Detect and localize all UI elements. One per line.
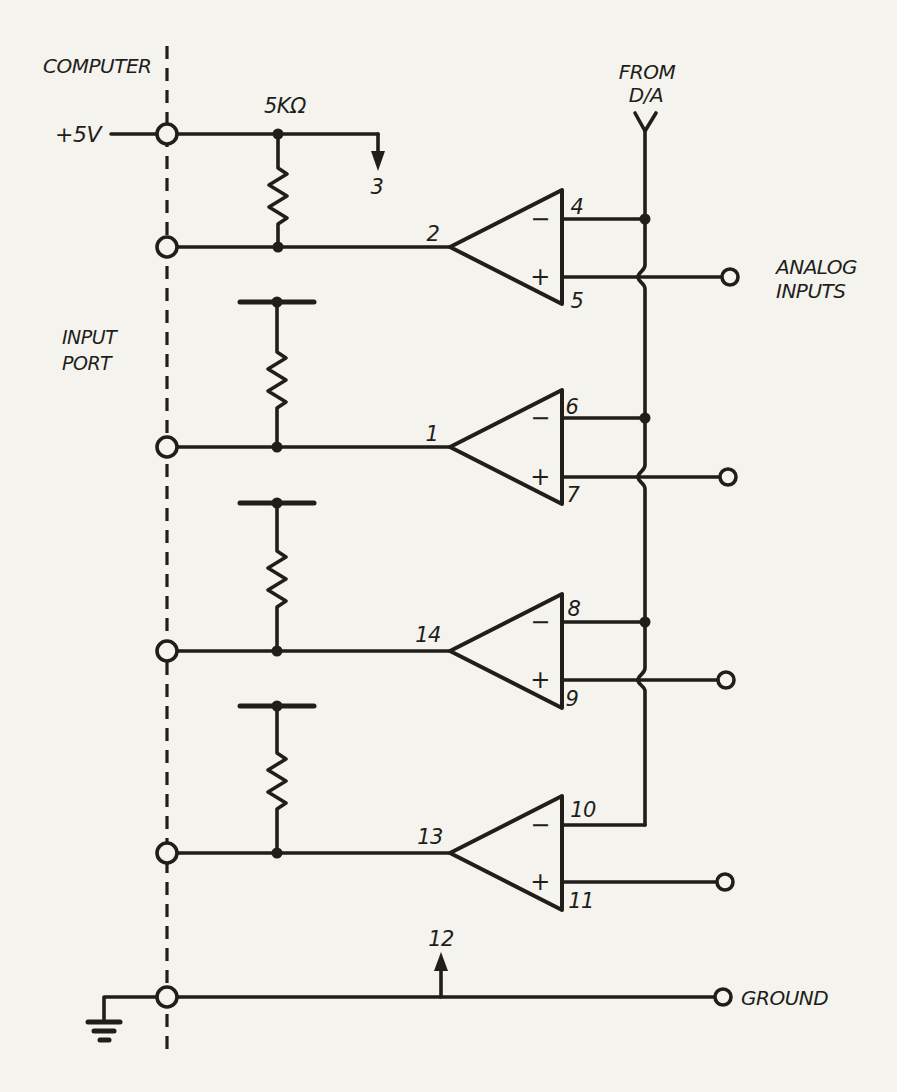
terminal-bit-2 <box>157 437 177 457</box>
comparator-2-minus-sign: − <box>530 404 550 432</box>
pin12-arrow-head-icon <box>434 952 448 971</box>
comparator-1-inverting-pin: 4 <box>571 195 584 219</box>
resistor-body <box>268 302 286 447</box>
comparator-4-output-pin: 13 <box>417 825 443 849</box>
analog-input-terminals <box>715 269 738 1005</box>
supply-rail <box>111 134 385 171</box>
resistor-body <box>268 706 286 853</box>
analog-terminal-2 <box>720 469 736 485</box>
from-da-label-2: D/A <box>629 83 663 107</box>
comparator-1-output-pin: 2 <box>427 222 440 246</box>
ground-label: GROUND <box>741 986 828 1010</box>
comparator-3-inverting-pin: 8 <box>568 597 581 621</box>
analog-inputs-label-1: ANALOG <box>774 255 857 279</box>
da-connector-icon <box>635 113 656 131</box>
comparator-4-noninverting-pin: 11 <box>568 889 594 913</box>
comparator-1-noninverting-pin: 5 <box>571 289 584 313</box>
terminal-bit-1 <box>157 237 177 257</box>
analog-inputs-label-2: INPUTS <box>776 279 846 303</box>
input-port-label-2: PORT <box>62 352 113 374</box>
comparator-3-minus-sign: − <box>530 608 550 636</box>
comparator-2-inverting-pin: 6 <box>566 395 579 419</box>
comparator-2-noninverting-pin: 7 <box>567 483 581 507</box>
comparator-2-plus-sign: + <box>530 463 550 491</box>
computer-label: COMPUTER <box>43 54 151 78</box>
comparator-4-plus-sign: + <box>530 868 550 896</box>
terminal-bit-4 <box>157 843 177 863</box>
input-port-terminals <box>157 124 177 1007</box>
analog-terminal-3 <box>718 672 734 688</box>
resistor-value-label: 5KΩ <box>264 94 306 118</box>
from-da-label-1: FROM <box>619 60 676 84</box>
terminal-bit-3 <box>157 641 177 661</box>
resistor-body <box>268 503 286 651</box>
comparator-1-plus-sign: + <box>530 263 550 291</box>
analog-terminal-1 <box>722 269 738 285</box>
comparator-3-output-pin: 14 <box>415 623 441 647</box>
junction-dots <box>272 129 651 859</box>
ground-terminal-right <box>715 989 731 1005</box>
terminal-5v <box>157 124 177 144</box>
pullup-resistor-1 <box>269 134 287 247</box>
comparator-4-inverting-pin: 10 <box>570 798 596 822</box>
comparator-4-minus-sign: − <box>530 811 550 839</box>
comparator-schematic: COMPUTER INPUT PORT +5V 5KΩ 3 FROM D/A A… <box>0 0 897 1092</box>
comparator-2-output-pin: 1 <box>426 422 439 446</box>
terminal-ground <box>157 987 177 1007</box>
comparator-3-plus-sign: + <box>530 666 550 694</box>
pin12-label: 12 <box>428 927 454 951</box>
pullup-resistor-4 <box>240 706 314 853</box>
input-port-label-1: INPUT <box>62 326 118 348</box>
pullup-resistor-2 <box>240 302 314 447</box>
pullup-resistor-3 <box>240 503 314 651</box>
schematic-sheet: COMPUTER INPUT PORT +5V 5KΩ 3 FROM D/A A… <box>0 0 897 1092</box>
comparator-3-noninverting-pin: 9 <box>566 687 579 711</box>
pin3-arrow-head-icon <box>371 151 385 171</box>
analog-terminal-4 <box>717 874 733 890</box>
ground-symbol-icon <box>88 1022 120 1040</box>
ground-rail <box>88 952 723 1040</box>
pin3-label: 3 <box>371 175 384 199</box>
comparator-1-minus-sign: − <box>530 205 550 233</box>
supply-label: +5V <box>55 122 103 147</box>
